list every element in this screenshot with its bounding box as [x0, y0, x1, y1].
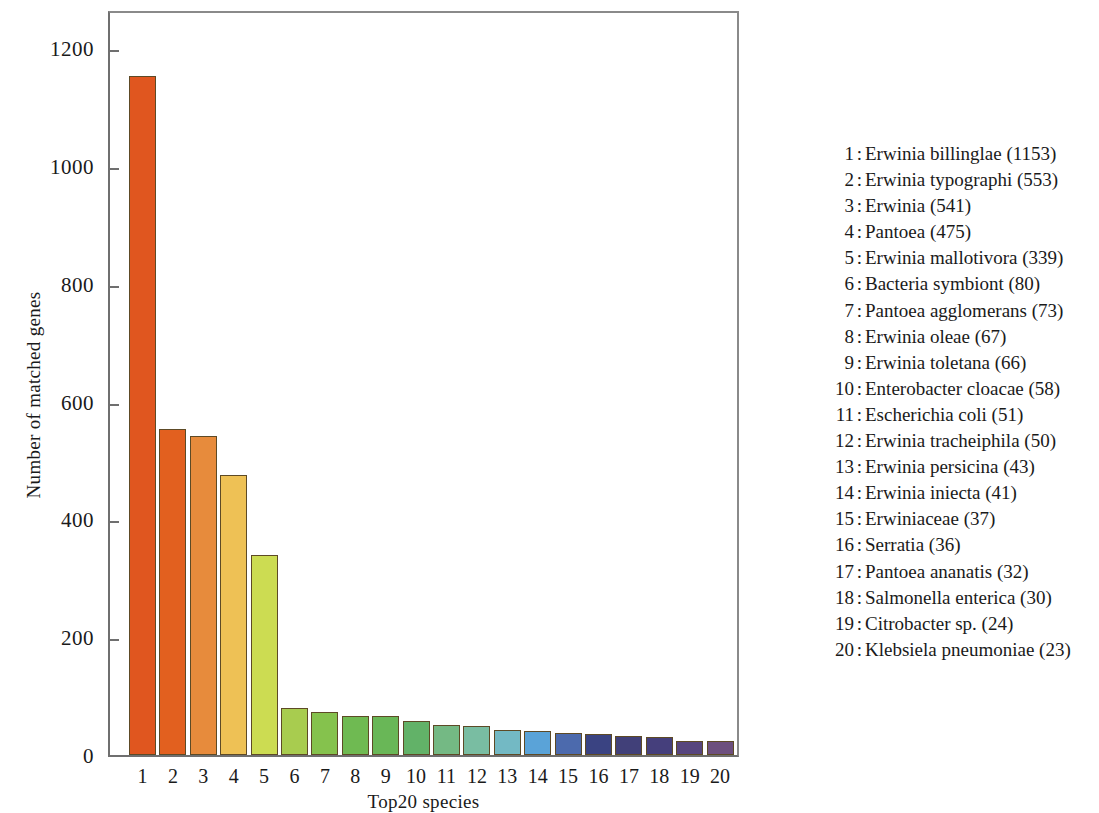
bar[interactable]	[220, 475, 247, 755]
legend-item-separator: :	[854, 352, 865, 374]
legend-item: 20:Klebsiela pneumoniae (23)	[822, 639, 1094, 665]
legend-item-label: Erwinia (541)	[865, 195, 1094, 217]
legend-item-index: 1	[822, 143, 854, 165]
legend-item-separator: :	[854, 534, 865, 556]
legend-item-label: Erwinia tracheiphila (50)	[865, 430, 1094, 452]
legend-item: 5:Erwinia mallotivora (339)	[822, 247, 1094, 273]
bar[interactable]	[494, 730, 521, 755]
legend-item-separator: :	[854, 247, 865, 269]
legend-item-label: Serratia (36)	[865, 534, 1094, 556]
bar[interactable]	[281, 708, 308, 755]
bar[interactable]	[433, 725, 460, 755]
bar[interactable]	[403, 721, 430, 755]
legend-item-index: 10	[822, 378, 854, 400]
legend-item-separator: :	[854, 613, 865, 635]
legend-item: 8:Erwinia oleae (67)	[822, 326, 1094, 352]
legend-item: 3:Erwinia (541)	[822, 195, 1094, 221]
bar[interactable]	[524, 731, 551, 755]
legend-item-separator: :	[854, 430, 865, 452]
bar-series	[108, 11, 739, 757]
legend: 1:Erwinia billinglae (1153)2:Erwinia typ…	[822, 143, 1094, 665]
legend-item-label: Enterobacter cloacae (58)	[865, 378, 1094, 400]
legend-item-index: 2	[822, 169, 854, 191]
legend-item-label: Erwinia oleae (67)	[865, 326, 1094, 348]
legend-item-separator: :	[854, 456, 865, 478]
bar[interactable]	[129, 76, 156, 755]
legend-item-label: Erwinia toletana (66)	[865, 352, 1094, 374]
legend-item-index: 13	[822, 456, 854, 478]
legend-item-label: Pantoea ananatis (32)	[865, 561, 1094, 583]
legend-item: 9:Erwinia toletana (66)	[822, 352, 1094, 378]
bar[interactable]	[676, 741, 703, 755]
legend-item-index: 14	[822, 482, 854, 504]
legend-item-index: 16	[822, 534, 854, 556]
legend-item: 15:Erwiniaceae (37)	[822, 508, 1094, 534]
legend-item-index: 17	[822, 561, 854, 583]
y-axis-title: Number of matched genes	[23, 265, 45, 525]
legend-item: 14:Erwinia iniecta (41)	[822, 482, 1094, 508]
legend-item-separator: :	[854, 169, 865, 191]
bar[interactable]	[159, 429, 186, 755]
legend-item-index: 4	[822, 221, 854, 243]
legend-item-index: 9	[822, 352, 854, 374]
bar[interactable]	[251, 555, 278, 755]
legend-item-index: 3	[822, 195, 854, 217]
legend-item-index: 18	[822, 587, 854, 609]
legend-item-label: Bacteria symbiont (80)	[865, 273, 1094, 295]
legend-item-separator: :	[854, 561, 865, 583]
bar[interactable]	[585, 734, 612, 755]
y-axis-tick-label: 0	[20, 746, 94, 767]
legend-item: 12:Erwinia tracheiphila (50)	[822, 430, 1094, 456]
legend-item-index: 5	[822, 247, 854, 269]
legend-item-separator: :	[854, 221, 865, 243]
legend-item-separator: :	[854, 300, 865, 322]
y-axis-tick-label: 1200	[20, 39, 94, 60]
legend-item: 18:Salmonella enterica (30)	[822, 587, 1094, 613]
legend-item-label: Citrobacter sp. (24)	[865, 613, 1094, 635]
legend-item-index: 19	[822, 613, 854, 635]
bar[interactable]	[707, 741, 734, 755]
x-axis-title: Top20 species	[108, 791, 739, 813]
legend-item-label: Erwinia iniecta (41)	[865, 482, 1094, 504]
legend-item-label: Erwinia persicina (43)	[865, 456, 1094, 478]
legend-item-index: 6	[822, 273, 854, 295]
legend-item-label: Pantoea (475)	[865, 221, 1094, 243]
y-axis-tick-label: 200	[20, 628, 94, 649]
legend-item-separator: :	[854, 639, 865, 661]
legend-item-separator: :	[854, 378, 865, 400]
legend-item-separator: :	[854, 143, 865, 165]
legend-item: 2:Erwinia typographi (553)	[822, 169, 1094, 195]
legend-item-label: Erwinia typographi (553)	[865, 169, 1094, 191]
bar[interactable]	[311, 712, 338, 755]
bar-chart-figure: 020040060080010001200 Number of matched …	[0, 0, 1099, 813]
bar[interactable]	[190, 436, 217, 755]
legend-item: 4:Pantoea (475)	[822, 221, 1094, 247]
legend-item: 11:Escherichia coli (51)	[822, 404, 1094, 430]
legend-item: 19:Citrobacter sp. (24)	[822, 613, 1094, 639]
legend-item-index: 8	[822, 326, 854, 348]
legend-item-index: 7	[822, 300, 854, 322]
bar[interactable]	[463, 726, 490, 755]
legend-item-label: Escherichia coli (51)	[865, 404, 1094, 426]
legend-item: 13:Erwinia persicina (43)	[822, 456, 1094, 482]
bar[interactable]	[342, 716, 369, 755]
legend-item-separator: :	[854, 404, 865, 426]
legend-item: 17:Pantoea ananatis (32)	[822, 561, 1094, 587]
legend-item-label: Pantoea agglomerans (73)	[865, 300, 1094, 322]
legend-item-index: 15	[822, 508, 854, 530]
bar[interactable]	[646, 737, 673, 755]
legend-item-index: 20	[822, 639, 854, 661]
y-axis-title-text: Number of matched genes	[23, 292, 44, 499]
legend-item-separator: :	[854, 273, 865, 295]
legend-item-label: Erwinia billinglae (1153)	[865, 143, 1094, 165]
bar[interactable]	[372, 716, 399, 755]
bar[interactable]	[615, 736, 642, 755]
bar[interactable]	[555, 733, 582, 755]
legend-item-separator: :	[854, 195, 865, 217]
legend-item: 7:Pantoea agglomerans (73)	[822, 300, 1094, 326]
x-axis-tick-label: 20	[700, 765, 740, 787]
legend-item-label: Klebsiela pneumoniae (23)	[865, 639, 1094, 661]
legend-item-index: 12	[822, 430, 854, 452]
legend-item-separator: :	[854, 326, 865, 348]
legend-item: 6:Bacteria symbiont (80)	[822, 273, 1094, 299]
